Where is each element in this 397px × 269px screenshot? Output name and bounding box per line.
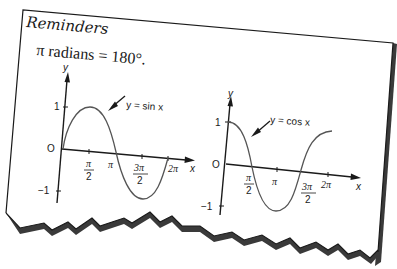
- cosine-x-tick-3pi-over-2-num: 3π: [301, 181, 313, 192]
- cosine-x-axis-label: x: [355, 181, 362, 192]
- cosine-x-tick-pi-over-2-den: 2: [246, 185, 252, 196]
- cosine-x-tick-2pi: 2π: [321, 179, 332, 190]
- sine-x-tick-3pi-over-2-num: 3π: [133, 162, 145, 173]
- sine-x-tick-3pi-over-2-den: 2: [137, 175, 143, 186]
- cosine-y-tick-1: 1: [215, 117, 221, 128]
- cosine-y-tick-neg1: −1: [201, 201, 213, 212]
- sine-y-axis-label: y: [62, 62, 69, 73]
- cosine-origin-label: O: [212, 159, 220, 170]
- sine-y-tick-1: 1: [54, 101, 60, 112]
- sine-x-tick-2pi: 2π: [168, 163, 179, 174]
- sine-x-axis-label: x: [189, 163, 196, 174]
- reminder-card-illustration: Reminders π radians = 180°. y x O 1 −1 π…: [0, 0, 397, 269]
- sine-y-tick-neg1: −1: [38, 185, 50, 196]
- sine-origin-label: O: [47, 143, 55, 154]
- sine-x-tick-pi-over-2-den: 2: [86, 171, 92, 182]
- cosine-x-tick-3pi-over-2-den: 2: [305, 194, 311, 205]
- cosine-y-axis-label: y: [227, 88, 234, 99]
